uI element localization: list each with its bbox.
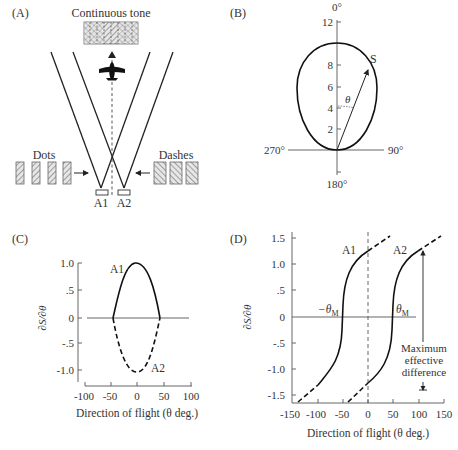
dots-label: Dots <box>33 148 56 162</box>
c-xtick: -100 <box>74 390 95 402</box>
max-diff-label-3: difference <box>402 366 446 378</box>
tick-4: 4 <box>328 102 334 114</box>
c-ytick: 1.0 <box>60 257 74 269</box>
receptor-a2 <box>118 190 130 195</box>
dashes-stimulus <box>154 162 198 184</box>
d-xtick: -150 <box>280 408 301 420</box>
d-xtick: 50 <box>388 408 400 420</box>
dots-stimulus <box>16 162 71 184</box>
receptor-a1 <box>96 190 108 195</box>
angle-0-label: 0° <box>332 1 342 13</box>
continuous-tone-label: Continuous tone <box>71 6 150 20</box>
c-y-ticks <box>78 263 82 370</box>
tick-8: 8 <box>328 59 334 71</box>
c-ytick: -.5 <box>62 337 74 349</box>
tick-12: 12 <box>322 16 333 28</box>
d-ytick: 1.0 <box>271 258 285 270</box>
d-xtick: -100 <box>306 408 327 420</box>
c-xtick: 100 <box>183 390 200 402</box>
dashes-label: Dashes <box>159 148 194 162</box>
panel-b: (B) 0° 12 8 6 4 2 270° 90° 180° S θ <box>230 1 403 190</box>
panel-a: (A) Continuous tone <box>12 6 198 210</box>
d-xtick: 100 <box>411 408 428 420</box>
tick-6: 6 <box>328 81 334 93</box>
c-x-ticks <box>85 382 191 386</box>
d-ytick: -1.0 <box>268 363 286 375</box>
d-curve-a1 <box>318 251 368 385</box>
figure: (A) Continuous tone <box>0 0 458 450</box>
d-ytick: 1.5 <box>271 232 285 244</box>
c-a2-label: A2 <box>151 362 165 374</box>
c-ytick: -1.0 <box>57 364 75 376</box>
continuous-tone-stimulus <box>84 22 138 44</box>
theta-label: θ <box>345 93 351 105</box>
d-curve-a1-ext <box>368 236 390 251</box>
d-y-ticks <box>292 238 296 395</box>
c-a1-label: A1 <box>110 263 124 275</box>
panel-b-label: (B) <box>230 6 246 20</box>
receptor-a2-label: A2 <box>117 196 132 210</box>
c-x-label: Direction of flight (θ deg.) <box>76 407 198 420</box>
d-curve-a1-ext <box>298 385 318 402</box>
panel-c: (C) 1.0 .5 0 -.5 -1.0 ∂S/∂θ -100 -50 0 5… <box>12 232 200 420</box>
vector-s-label: S <box>370 52 377 66</box>
panel-d-label: (D) <box>230 232 247 246</box>
d-a1-label: A1 <box>342 244 356 256</box>
max-diff-label-1: Maximum <box>401 342 447 354</box>
c-xtick: 0 <box>134 390 140 402</box>
d-y-label: ∂S/∂θ <box>241 304 253 329</box>
c-ytick: .5 <box>66 284 75 296</box>
d-curve-a2-ext <box>418 236 441 251</box>
max-diff-label-2: effective <box>405 354 443 366</box>
flight-direction-arrow <box>108 51 116 58</box>
panel-c-label: (C) <box>12 232 28 246</box>
theta-m-label: θM <box>396 303 409 318</box>
d-ytick: 0 <box>280 311 286 323</box>
d-ytick: -1.5 <box>268 389 286 401</box>
d-a2-label: A2 <box>393 244 407 256</box>
angle-90-label: 90° <box>388 144 403 156</box>
d-xtick: -50 <box>335 408 350 420</box>
panel-d: (D) 1.5 1.0 .5 0 -.5 -1.0 -1.5 ∂S/∂θ <box>230 232 453 440</box>
angle-270-label: 270° <box>264 144 285 156</box>
neg-theta-m-label: −θM <box>318 303 339 318</box>
airplane-icon <box>99 62 125 81</box>
c-xtick: 50 <box>159 390 171 402</box>
c-ytick: 0 <box>69 312 75 324</box>
d-x-label: Direction of flight (θ deg.) <box>307 427 429 440</box>
d-xtick: 150 <box>436 408 453 420</box>
angle-180-label: 180° <box>327 178 348 190</box>
d-curve-a2-ext <box>348 383 368 402</box>
d-ytick: -.5 <box>273 337 285 349</box>
d-ytick: .5 <box>277 284 286 296</box>
receptor-a1-label: A1 <box>94 196 109 210</box>
d-xtick: 0 <box>365 408 371 420</box>
vector-s <box>337 70 368 150</box>
c-y-label: ∂S/∂θ <box>36 305 48 330</box>
tick-2: 2 <box>328 123 334 135</box>
c-xtick: -50 <box>103 390 118 402</box>
panel-a-label: (A) <box>12 6 29 20</box>
